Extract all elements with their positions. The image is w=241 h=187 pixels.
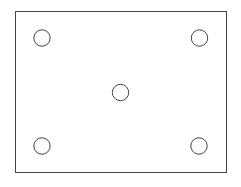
diagram-canvas: Rectangular plate with five circular hol… (0, 0, 241, 187)
center-hole (112, 84, 128, 100)
top-left-hole (34, 30, 50, 46)
technical-drawing: Rectangular plate with five circular hol… (0, 0, 241, 187)
bottom-right-hole (191, 138, 207, 154)
bottom-left-hole (34, 138, 50, 154)
top-right-hole (191, 30, 207, 46)
